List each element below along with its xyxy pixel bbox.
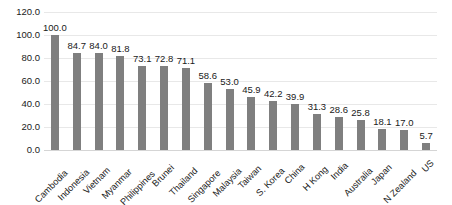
bar-value-label: 73.1	[133, 54, 152, 64]
bar	[291, 104, 299, 150]
bar-value-label: 45.9	[242, 85, 261, 95]
bar-group: 31.3H Kong	[306, 12, 328, 150]
bar-value-label: 84.0	[89, 41, 108, 51]
bar-group: 81.8Myanmar	[110, 12, 132, 150]
bar-value-label: 81.8	[111, 44, 130, 54]
y-axis-tick-label: 100.0	[0, 30, 40, 40]
x-axis-tick-label: US	[421, 159, 437, 175]
bar-value-label: 84.7	[67, 41, 86, 51]
bar	[378, 129, 386, 150]
bar-group: 42.2S. Korea	[262, 12, 284, 150]
bar-group: 84.7Indonesia	[66, 12, 88, 150]
bar-group: 18.1Japan	[372, 12, 394, 150]
bar	[182, 68, 190, 150]
y-axis-tick-label: 120.0	[0, 7, 40, 17]
y-gridline	[44, 150, 437, 151]
bar-group: 71.1Thailand	[175, 12, 197, 150]
bar-value-label: 39.9	[286, 92, 305, 102]
bar	[160, 66, 168, 150]
bar-value-label: 18.1	[373, 117, 392, 127]
bar-value-label: 5.7	[419, 131, 432, 141]
bar-group: 53.0Malaysia	[219, 12, 241, 150]
bar	[116, 56, 124, 150]
bar	[226, 89, 234, 150]
bar-value-label: 58.6	[198, 71, 217, 81]
bar	[73, 53, 81, 150]
bar	[269, 101, 277, 150]
y-axis-tick-label: 20.0	[0, 122, 40, 132]
bar-group: 100.0Cambodia	[44, 12, 66, 150]
bar	[400, 130, 408, 150]
bar	[313, 114, 321, 150]
bar-value-label: 42.2	[264, 89, 283, 99]
bar	[204, 83, 212, 150]
bar-value-label: 100.0	[43, 23, 67, 33]
bar-group: 84.0Vietnam	[88, 12, 110, 150]
bar-value-label: 28.6	[329, 105, 348, 115]
y-axis-tick-label: 60.0	[0, 76, 40, 86]
bar-group: 73.1Philippines	[131, 12, 153, 150]
bar-value-label: 31.3	[308, 102, 327, 112]
bar-value-label: 25.8	[351, 108, 370, 118]
bar-group: 72.8Brunei	[153, 12, 175, 150]
plot-area: 0.020.040.060.080.0100.0120.0100.0Cambod…	[44, 12, 437, 150]
bar-value-label: 17.0	[395, 118, 414, 128]
bar	[95, 53, 103, 150]
y-axis-tick-label: 0.0	[0, 145, 40, 155]
bar-group: 58.6Singapore	[197, 12, 219, 150]
bar	[138, 66, 146, 150]
bar	[51, 35, 59, 150]
bar-value-label: 53.0	[220, 77, 239, 87]
x-axis-tick: India	[335, 153, 356, 174]
bar-group: 28.6India	[328, 12, 350, 150]
bar-chart: 0.020.040.060.080.0100.0120.0100.0Cambod…	[0, 0, 452, 205]
bar	[422, 143, 430, 150]
bar-group: 5.7US	[415, 12, 437, 150]
x-axis-tick-label: Australia	[342, 167, 374, 199]
y-axis-tick-label: 80.0	[0, 53, 40, 63]
bar	[357, 120, 365, 150]
bar-group: 25.8Australia	[350, 12, 372, 150]
y-axis-tick-label: 40.0	[0, 99, 40, 109]
bar-group: 17.0N Zealand	[393, 12, 415, 150]
bar	[335, 117, 343, 150]
bar-group: 45.9Taiwan	[241, 12, 263, 150]
bar-group: 39.9China	[284, 12, 306, 150]
bar	[247, 97, 255, 150]
bar-value-label: 72.8	[155, 54, 174, 64]
bar-value-label: 71.1	[177, 56, 196, 66]
